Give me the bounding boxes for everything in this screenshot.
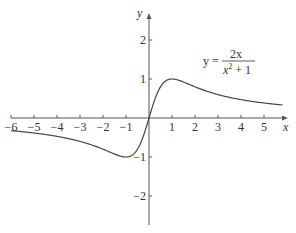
x-tick-label: 4: [238, 120, 244, 134]
x-tick-label: −6: [5, 120, 18, 134]
y-tick-label: 2: [140, 33, 146, 47]
y-tick-label: 1: [140, 72, 146, 86]
equation-numerator: 2x: [230, 47, 242, 61]
y-tick-label: −2: [133, 189, 146, 203]
x-tick-label: 5: [261, 120, 267, 134]
equation-label: y = 2x x2 + 1: [203, 47, 255, 77]
y-axis-arrow-icon: [147, 13, 152, 19]
x-tick-label: 2: [192, 120, 198, 134]
x-tick-label: −2: [97, 120, 110, 134]
x-tick-label: −3: [74, 120, 87, 134]
equation-lhs: y =: [203, 54, 219, 68]
x-tick-label: 3: [215, 120, 221, 134]
axes: [11, 13, 288, 225]
y-axis-label: y: [136, 6, 143, 20]
x-tick-label: −4: [51, 120, 64, 134]
equation-denominator: x2 + 1: [222, 62, 251, 77]
x-tick-label: 1: [169, 120, 175, 134]
function-plot: −6−5−4−3−2−112345 21−1−2 x y y = 2x x2 +…: [0, 0, 296, 233]
x-tick-label: −1: [120, 120, 133, 134]
x-axis-label: x: [282, 120, 289, 134]
